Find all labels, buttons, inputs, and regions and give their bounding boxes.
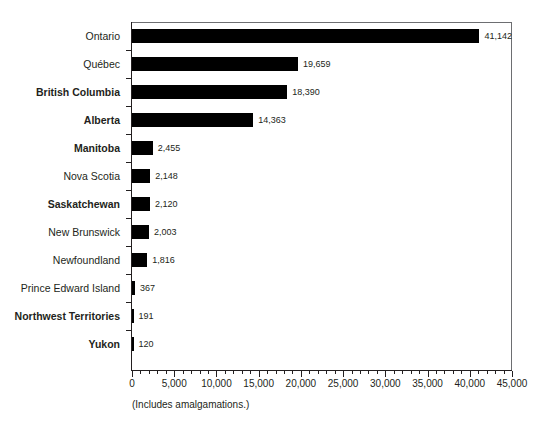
bar-row: 2,120	[132, 190, 512, 218]
category-label: British Columbia	[0, 87, 120, 98]
category-axis-labels: OntarioQuébecBritish ColumbiaAlbertaMani…	[0, 22, 126, 370]
bar-value-label: 1,816	[147, 253, 175, 267]
x-axis-minor-tick	[242, 371, 243, 374]
bar-row: 2,148	[132, 162, 512, 190]
x-axis-major-tick	[216, 371, 217, 377]
x-axis-minor-tick	[157, 371, 158, 374]
category-label: Manitoba	[0, 143, 120, 154]
x-axis-tick-label: 5,000	[162, 378, 187, 390]
x-axis-minor-tick	[149, 371, 150, 374]
y-axis-tick	[126, 162, 132, 163]
x-axis-minor-tick	[225, 371, 226, 374]
x-axis-major-tick	[301, 371, 302, 377]
bar-row: 367	[132, 274, 512, 302]
x-axis-minor-tick	[444, 371, 445, 374]
bar-series: 41,14219,65918,39014,3632,4552,1482,1202…	[132, 22, 512, 370]
x-axis-major-tick	[343, 371, 344, 377]
x-axis-major-tick	[470, 371, 471, 377]
x-axis-major-tick	[132, 371, 133, 377]
bar-value-label: 2,455	[153, 141, 181, 155]
bar	[132, 197, 150, 211]
x-axis-minor-tick	[191, 371, 192, 374]
x-axis-tick-label: 40,000	[454, 378, 485, 390]
category-label: Newfoundland	[0, 255, 120, 266]
bar-row: 41,142	[132, 22, 512, 50]
category-label: Alberta	[0, 115, 120, 126]
x-axis-minor-tick	[233, 371, 234, 374]
bar-row: 2,455	[132, 134, 512, 162]
y-axis-tick	[126, 190, 132, 191]
x-axis-minor-tick	[292, 371, 293, 374]
x-axis-minor-tick	[495, 371, 496, 374]
x-axis-minor-tick	[318, 371, 319, 374]
category-label: Québec	[0, 59, 120, 70]
x-axis-minor-tick	[208, 371, 209, 374]
category-label: Yukon	[0, 339, 120, 350]
x-axis-minor-tick	[183, 371, 184, 374]
y-axis-tick	[126, 246, 132, 247]
bar-row: 191	[132, 302, 512, 330]
bar-value-label: 19,659	[298, 57, 331, 71]
bar	[132, 169, 150, 183]
category-label: Prince Edward Island	[0, 283, 120, 294]
x-axis-minor-tick	[284, 371, 285, 374]
y-axis-tick	[126, 134, 132, 135]
y-axis-tick	[126, 274, 132, 275]
y-axis-tick	[126, 50, 132, 51]
bar-value-label: 2,120	[150, 197, 178, 211]
bar	[132, 29, 479, 43]
bar	[132, 85, 287, 99]
y-axis-tick	[126, 106, 132, 107]
x-axis-minor-tick	[504, 371, 505, 374]
x-axis-major-tick	[385, 371, 386, 377]
x-axis-minor-tick	[411, 371, 412, 374]
x-axis-tick-label: 35,000	[412, 378, 443, 390]
bar-value-label: 191	[134, 309, 154, 323]
x-axis-tick-label: 0	[129, 378, 135, 390]
x-axis-minor-tick	[166, 371, 167, 374]
x-axis-minor-tick	[461, 371, 462, 374]
x-axis-tick-labels: 05,00010,00015,00020,00025,00030,00035,0…	[0, 378, 549, 392]
bar-chart: OntarioQuébecBritish ColumbiaAlbertaMani…	[0, 0, 549, 431]
chart-caption: (Includes amalgamations.)	[132, 399, 249, 411]
category-label: Saskatchewan	[0, 199, 120, 210]
x-axis-minor-tick	[360, 371, 361, 374]
x-axis-minor-tick	[250, 371, 251, 374]
x-axis-major-tick	[428, 371, 429, 377]
y-axis-tick	[126, 78, 132, 79]
category-label: New Brunswick	[0, 227, 120, 238]
x-axis-minor-tick	[487, 371, 488, 374]
x-axis-tick-label: 20,000	[286, 378, 317, 390]
bar-value-label: 120	[134, 337, 154, 351]
x-axis-minor-tick	[478, 371, 479, 374]
x-axis-minor-tick	[200, 371, 201, 374]
x-axis-minor-tick	[309, 371, 310, 374]
x-axis-minor-tick	[335, 371, 336, 374]
x-axis-minor-tick	[267, 371, 268, 374]
x-axis-major-tick	[259, 371, 260, 377]
x-axis-minor-tick	[394, 371, 395, 374]
y-axis-tick	[126, 218, 132, 219]
x-axis-minor-tick	[352, 371, 353, 374]
bar-row: 19,659	[132, 50, 512, 78]
bar	[132, 141, 153, 155]
x-axis-minor-tick	[377, 371, 378, 374]
x-axis-minor-tick	[453, 371, 454, 374]
x-axis-major-tick	[512, 371, 513, 377]
bar-row: 2,003	[132, 218, 512, 246]
x-axis-minor-tick	[402, 371, 403, 374]
bar-value-label: 2,148	[150, 169, 178, 183]
bar-row: 14,363	[132, 106, 512, 134]
bar-row: 18,390	[132, 78, 512, 106]
bar-value-label: 14,363	[253, 113, 286, 127]
category-label: Northwest Territories	[0, 311, 120, 322]
category-label: Nova Scotia	[0, 171, 120, 182]
category-label: Ontario	[0, 31, 120, 42]
bar-row: 120	[132, 330, 512, 358]
bar-value-label: 2,003	[149, 225, 177, 239]
bar-value-label: 367	[135, 281, 155, 295]
x-axis-minor-tick	[436, 371, 437, 374]
x-axis-minor-tick	[276, 371, 277, 374]
x-axis-ticks	[132, 371, 512, 378]
x-axis-tick-label: 45,000	[497, 378, 528, 390]
